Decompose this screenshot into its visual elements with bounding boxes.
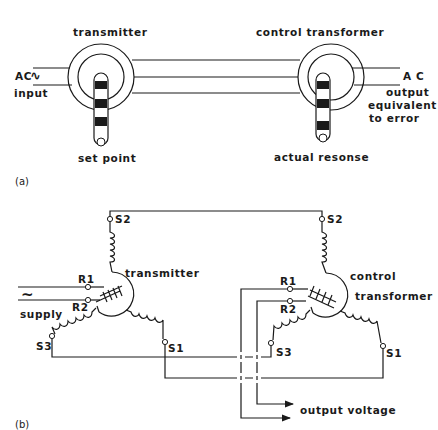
output-voltage-label: output voltage <box>300 404 396 416</box>
tx-r1-label: R1 <box>78 273 95 285</box>
ct-r1-label: R1 <box>280 275 297 287</box>
tx-s3-label: S3 <box>36 340 52 352</box>
actual-response-shaft <box>316 73 330 142</box>
ct-s2-label: S2 <box>327 213 343 225</box>
supply-ac-icon: ~ <box>21 286 34 304</box>
ac-output-label: A C <box>403 70 424 82</box>
transmitter-label: transmitter <box>73 26 148 38</box>
panel-b: S2 transmitter R1 R2 ~ supply S3 S1 S2 c… <box>15 211 433 430</box>
output-label: output <box>386 86 429 98</box>
input-label: input <box>14 87 48 99</box>
control-transformer-label: control transformer <box>256 26 384 38</box>
equivalent-label: equivalent <box>368 99 437 111</box>
ac-wave-icon: ∿ <box>30 68 42 83</box>
ct-s1-label: S1 <box>386 347 402 359</box>
control-label-b: control <box>350 270 396 282</box>
supply-label: supply <box>20 308 63 320</box>
tx-s1-label: S1 <box>168 342 184 354</box>
control-transformer-symbol <box>298 44 364 110</box>
tx-r2-label: R2 <box>72 301 89 313</box>
transformer-label-b: transformer <box>355 290 433 302</box>
ct-r2-label: R2 <box>280 303 297 315</box>
transmitter-label-b: transmitter <box>125 267 200 279</box>
set-point-label: set point <box>78 152 136 164</box>
set-point-shaft <box>94 73 108 146</box>
s2-link-wire <box>110 211 322 216</box>
panel-a: transmitter AC ∿ input set point control… <box>14 26 437 187</box>
to-error-label: to error <box>369 112 420 124</box>
ct-s3-label: S3 <box>276 346 292 358</box>
synchro-diagram: transmitter AC ∿ input set point control… <box>0 0 438 430</box>
actual-response-label: actual resonse <box>274 151 369 163</box>
caption-a: (a) <box>15 176 29 187</box>
s1-link-wire <box>165 345 383 378</box>
tx-s2-label: S2 <box>115 213 131 225</box>
caption-b: (b) <box>15 419 29 430</box>
